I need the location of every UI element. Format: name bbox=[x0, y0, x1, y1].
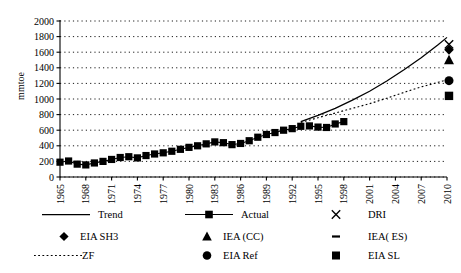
legend-label: ZF bbox=[82, 250, 94, 261]
legend-label: EIA SH3 bbox=[80, 231, 118, 242]
x-tick-label: 1971 bbox=[106, 184, 117, 204]
data-point-marker bbox=[297, 123, 304, 130]
legend-label: EIA Ref bbox=[223, 250, 258, 261]
x-tick-label: 1968 bbox=[80, 184, 91, 204]
legend-label: EIA SL bbox=[368, 250, 400, 261]
data-point-marker bbox=[177, 146, 184, 153]
y-tick-label: 600 bbox=[39, 125, 54, 136]
y-tick-label: 1400 bbox=[34, 62, 54, 73]
data-point-marker bbox=[74, 161, 81, 168]
legend-glyph-circle bbox=[203, 251, 212, 260]
data-point-marker bbox=[323, 124, 330, 131]
data-point-marker bbox=[151, 150, 158, 157]
x-tick-label: 1977 bbox=[158, 184, 169, 204]
y-tick-label: 800 bbox=[39, 109, 54, 120]
x-tick-label: 1995 bbox=[313, 184, 324, 204]
data-point-marker bbox=[168, 148, 175, 155]
x-tick-label: 1992 bbox=[287, 184, 298, 204]
legend-label: Trend bbox=[98, 209, 123, 220]
data-point-marker bbox=[340, 118, 347, 125]
y-tick-label: 1200 bbox=[34, 78, 54, 89]
data-point-marker bbox=[246, 137, 253, 144]
x-tick-label: 2007 bbox=[416, 184, 427, 204]
y-tick-label: 200 bbox=[39, 156, 54, 167]
data-point-marker bbox=[99, 158, 106, 165]
data-point-marker bbox=[125, 153, 132, 160]
x-tick-label: 2004 bbox=[390, 184, 401, 204]
legend-glyph-square bbox=[205, 211, 213, 219]
data-point-marker bbox=[185, 144, 192, 151]
y-tick-label: 1800 bbox=[34, 31, 54, 42]
y-tick-label: 0 bbox=[49, 172, 54, 183]
data-point-marker bbox=[263, 131, 270, 138]
x-tick-label: 1974 bbox=[132, 184, 143, 204]
legend-label: Actual bbox=[241, 209, 269, 220]
y-axis-title-text: mmtoe bbox=[15, 72, 26, 100]
data-point-marker bbox=[117, 154, 124, 161]
y-tick-label: 1000 bbox=[34, 94, 54, 105]
legend-label: DRI bbox=[368, 209, 387, 220]
data-point-marker bbox=[220, 139, 227, 146]
legend-glyph-square bbox=[332, 252, 340, 260]
y-axis-title: mmtoe bbox=[15, 72, 26, 100]
x-tick-label: 1989 bbox=[261, 184, 272, 204]
data-point-marker bbox=[237, 140, 244, 147]
data-point-marker bbox=[332, 120, 339, 127]
data-point-marker bbox=[142, 152, 149, 159]
data-point-marker bbox=[56, 159, 63, 166]
data-point-marker bbox=[211, 138, 218, 145]
x-tick-label: 1998 bbox=[338, 184, 349, 204]
data-point-marker bbox=[314, 123, 321, 130]
y-tick-label: 2000 bbox=[34, 16, 54, 27]
y-tick-label: 1600 bbox=[34, 47, 54, 58]
data-point-marker bbox=[160, 149, 167, 156]
data-point-marker bbox=[254, 134, 261, 141]
data-point-marker bbox=[82, 161, 89, 168]
data-point-marker bbox=[228, 141, 235, 148]
y-tick-label: 400 bbox=[39, 140, 54, 151]
data-point-marker bbox=[271, 129, 278, 136]
endpoint-marker-eia-ref bbox=[445, 76, 454, 85]
data-point-marker bbox=[65, 157, 72, 164]
data-point-marker bbox=[194, 142, 201, 149]
x-tick-label: 1980 bbox=[184, 184, 195, 204]
data-point-marker bbox=[134, 154, 141, 161]
data-point-marker bbox=[280, 127, 287, 134]
chart-figure: 2000180016001400120010008006004002000 19… bbox=[0, 0, 461, 273]
endpoint-marker-eia-sl bbox=[445, 92, 453, 100]
legend-label: IEA (CC) bbox=[223, 231, 264, 243]
data-point-marker bbox=[108, 156, 115, 163]
legend-label: IEA( ES) bbox=[368, 231, 408, 243]
x-tick-label: 1986 bbox=[235, 184, 246, 204]
x-tick-label: 1983 bbox=[209, 184, 220, 204]
x-tick-label: 1965 bbox=[55, 184, 66, 204]
data-point-marker bbox=[306, 122, 313, 129]
data-point-marker bbox=[203, 140, 210, 147]
data-point-marker bbox=[289, 125, 296, 132]
x-tick-label: 2001 bbox=[364, 184, 375, 204]
chart-canvas: 2000180016001400120010008006004002000 19… bbox=[0, 0, 461, 273]
x-tick-label: 2010 bbox=[442, 184, 453, 204]
data-point-marker bbox=[91, 159, 98, 166]
